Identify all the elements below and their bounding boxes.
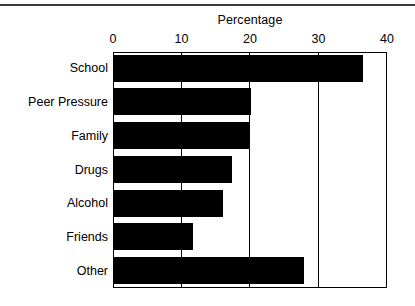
- y-category-label: Drugs: [75, 164, 108, 177]
- y-category-label: Peer Pressure: [28, 96, 108, 109]
- x-tick-label: 30: [312, 32, 326, 46]
- x-tick-label: 40: [380, 32, 394, 46]
- chart-title: Percentage: [113, 13, 387, 27]
- x-tick-label: 20: [243, 32, 257, 46]
- bar: [114, 55, 363, 82]
- chart-figure: Percentage 010203040 SchoolPeer Pressure…: [0, 0, 415, 306]
- y-category-label: Alcohol: [67, 197, 108, 210]
- bar: [114, 88, 251, 115]
- plot-area: [113, 52, 387, 288]
- bars-layer: [114, 53, 386, 287]
- y-axis-category-labels: SchoolPeer PressureFamilyDrugsAlcoholFri…: [0, 52, 108, 288]
- y-category-label: School: [70, 62, 108, 75]
- bar: [114, 223, 193, 250]
- x-tick-label: 0: [110, 32, 117, 46]
- bar: [114, 257, 304, 284]
- bar-row: [114, 223, 386, 250]
- y-category-label: Family: [71, 130, 108, 143]
- bar-row: [114, 55, 386, 82]
- bar: [114, 122, 250, 149]
- bar: [114, 190, 223, 217]
- bar-row: [114, 257, 386, 284]
- y-category-label: Other: [77, 265, 108, 278]
- bar-row: [114, 156, 386, 183]
- bar-row: [114, 122, 386, 149]
- x-axis-tick-labels: 010203040: [0, 32, 415, 47]
- bar: [114, 156, 232, 183]
- bar-row: [114, 190, 386, 217]
- y-category-label: Friends: [66, 231, 108, 244]
- bar-row: [114, 88, 386, 115]
- x-tick-label: 10: [175, 32, 189, 46]
- top-divider-rule: [0, 4, 415, 6]
